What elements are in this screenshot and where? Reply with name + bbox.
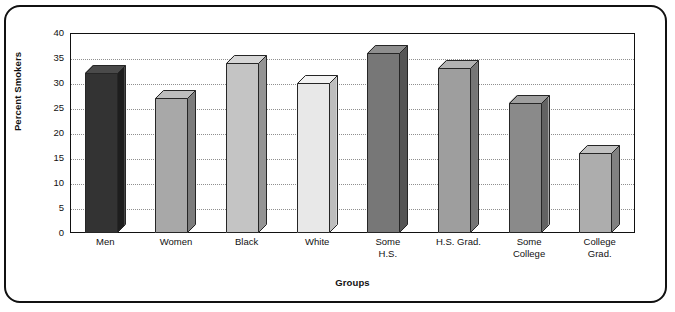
chart-figure: Percent Smokers 4035302520151050 MenWome… <box>0 0 675 312</box>
x-axis-tick-label: White <box>282 236 353 248</box>
y-axis-tick-label: 30 <box>38 78 64 88</box>
plot-area <box>70 33 635 233</box>
y-axis-tick-label: 35 <box>38 53 64 63</box>
x-axis-tick-label: Some H.S. <box>353 236 424 259</box>
x-axis-tick-label: Black <box>211 236 282 248</box>
x-axis-tick-label: College Grad. <box>564 236 635 259</box>
x-axis-tick-label: Men <box>70 236 141 248</box>
x-axis-tick-label: Some College <box>494 236 565 259</box>
gridline <box>71 184 634 185</box>
gridline <box>71 134 634 135</box>
y-axis-tick-label: 15 <box>38 153 64 163</box>
y-axis-tick-label: 0 <box>38 228 64 238</box>
gridline <box>71 109 634 110</box>
gridline <box>71 159 634 160</box>
y-axis-tick-labels: 4035302520151050 <box>38 33 64 233</box>
x-axis-title: Groups <box>70 277 635 288</box>
x-axis-tick-label: H.S. Grad. <box>423 236 494 248</box>
y-axis-tick-label: 25 <box>38 103 64 113</box>
y-axis-tick-label: 40 <box>38 28 64 38</box>
gridline <box>71 59 634 60</box>
y-axis-title: Percent Smokers <box>12 32 23 152</box>
x-axis-tick-labels: MenWomenBlackWhiteSome H.S.H.S. Grad.Som… <box>70 236 635 274</box>
gridline <box>71 209 634 210</box>
y-axis-tick-label: 20 <box>38 128 64 138</box>
x-axis-tick-label: Women <box>141 236 212 248</box>
gridline <box>71 84 634 85</box>
y-axis-tick-label: 5 <box>38 203 64 213</box>
y-axis-tick-label: 10 <box>38 178 64 188</box>
